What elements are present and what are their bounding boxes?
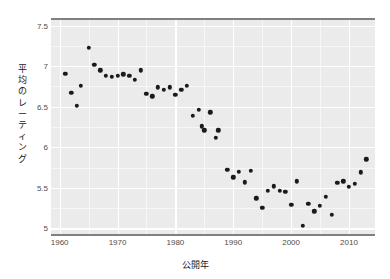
y-tick-label: 6 — [26, 143, 48, 152]
gridline-minor-horizontal — [51, 208, 375, 209]
plot-area — [51, 20, 375, 234]
gridline-major-horizontal — [51, 107, 375, 108]
data-point — [243, 180, 247, 184]
data-point — [110, 75, 114, 79]
y-tick-label: 7.5 — [26, 21, 48, 30]
data-point — [324, 195, 328, 199]
data-point — [179, 88, 183, 92]
data-point — [69, 91, 73, 95]
gridline-minor-vertical — [262, 20, 263, 234]
data-point — [202, 128, 206, 132]
data-point — [295, 179, 299, 183]
data-point — [191, 113, 195, 117]
gridline-minor-horizontal — [51, 46, 375, 47]
data-point — [358, 170, 362, 174]
data-point — [144, 92, 148, 96]
gridline-major-horizontal — [51, 26, 375, 27]
data-point — [150, 94, 154, 98]
data-point — [283, 190, 287, 194]
gridline-minor-vertical — [320, 20, 321, 234]
gridline-minor-vertical — [146, 20, 147, 234]
data-point — [127, 74, 131, 78]
x-tick-label: 2000 — [282, 238, 300, 247]
x-tick-label: 1970 — [109, 238, 127, 247]
data-point — [173, 92, 177, 96]
data-point — [306, 202, 310, 206]
y-tick-label: 5 — [26, 224, 48, 233]
gridline-minor-vertical — [204, 20, 205, 234]
data-point — [260, 206, 264, 210]
data-point — [254, 196, 258, 200]
gridline-major-horizontal — [51, 147, 375, 148]
data-point — [104, 74, 108, 78]
data-point — [335, 181, 339, 185]
gridline-major-vertical — [175, 20, 176, 234]
data-point — [248, 169, 252, 173]
data-point — [208, 110, 212, 114]
data-point — [266, 189, 270, 193]
x-tick-label: 2010 — [340, 238, 358, 247]
x-tick-label: 1960 — [51, 238, 69, 247]
data-point — [115, 74, 119, 78]
data-point — [121, 72, 125, 76]
data-point — [329, 212, 333, 216]
data-point — [225, 168, 229, 172]
gridline-minor-horizontal — [51, 168, 375, 169]
gridline-major-vertical — [349, 20, 350, 234]
data-point — [312, 209, 316, 213]
data-point — [167, 85, 171, 89]
data-point — [162, 88, 166, 92]
x-axis-title: 公開年 — [0, 258, 390, 271]
data-point — [216, 128, 220, 132]
gridline-minor-horizontal — [51, 86, 375, 87]
data-point — [277, 189, 281, 193]
gridline-major-vertical — [118, 20, 119, 234]
x-axis-tick-labels: 196019701980199020002010 — [0, 238, 390, 250]
data-point — [214, 135, 218, 139]
data-point — [63, 71, 67, 75]
data-point — [156, 85, 160, 89]
data-point — [237, 169, 241, 173]
gridline-major-vertical — [60, 20, 61, 234]
y-tick-label: 6.5 — [26, 102, 48, 111]
gridline-minor-vertical — [89, 20, 90, 234]
gridline-minor-horizontal — [51, 127, 375, 128]
x-tick-label: 1980 — [166, 238, 184, 247]
scatter-chart: 平均のレーティング 55.566.577.5 19601970198019902… — [0, 0, 390, 279]
data-point — [196, 108, 200, 112]
axis-line-bottom — [51, 234, 375, 236]
data-point — [364, 157, 368, 161]
data-point — [231, 175, 235, 179]
data-point — [341, 179, 345, 183]
y-tick-label: 5.5 — [26, 183, 48, 192]
gridline-major-horizontal — [51, 188, 375, 189]
y-tick-label: 7 — [26, 62, 48, 71]
data-point — [353, 182, 357, 186]
gridline-major-vertical — [233, 20, 234, 234]
data-point — [133, 78, 137, 82]
data-point — [289, 203, 293, 207]
data-point — [138, 68, 142, 72]
x-tick-label: 1990 — [224, 238, 242, 247]
data-point — [98, 68, 102, 72]
data-point — [86, 45, 90, 49]
gridline-major-horizontal — [51, 228, 375, 229]
